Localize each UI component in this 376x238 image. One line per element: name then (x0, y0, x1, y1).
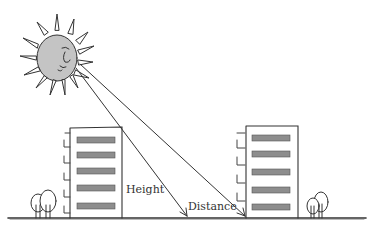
right-building (237, 126, 298, 218)
tree-icon (31, 190, 56, 218)
height-label: Height (126, 183, 164, 196)
distance-label: Distance (188, 200, 237, 213)
left-building (64, 127, 122, 218)
diagram-canvas: Height Distance (0, 0, 376, 238)
tree-icon (307, 192, 328, 218)
sun-icon (20, 14, 94, 95)
